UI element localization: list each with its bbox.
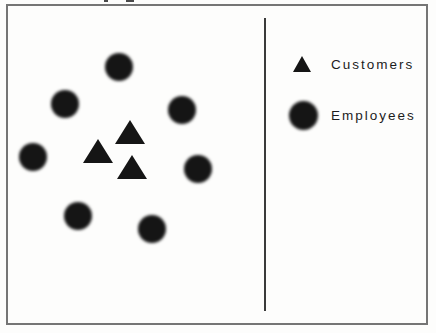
employees-circle-icon <box>289 101 318 130</box>
figure-frame <box>6 4 428 325</box>
caption-fragment-mark <box>104 0 108 2</box>
legend-label-customers: Customers <box>331 57 414 72</box>
customers-triangle-icon <box>293 56 311 72</box>
legend-label-employees: Employees <box>331 108 416 123</box>
legend-divider <box>264 18 266 311</box>
caption-fragment-mark <box>126 0 134 2</box>
legend-item-customers: Customers <box>293 56 414 72</box>
legend-item-employees: Employees <box>289 101 416 130</box>
